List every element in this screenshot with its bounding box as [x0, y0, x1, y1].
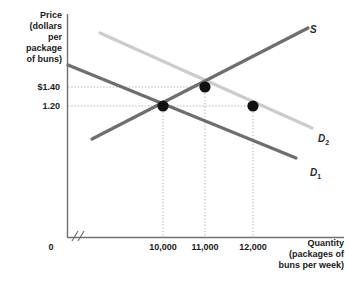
demand1-curve-label: D1 [310, 167, 321, 180]
y-tick-label-1-40: $1.40 [12, 82, 60, 92]
supply-curve-label: S [310, 24, 317, 35]
point-new-equilibrium [199, 81, 210, 92]
point-initial-equilibrium [157, 100, 168, 111]
demand1-curve-label-subscript: 1 [317, 173, 321, 180]
supply-demand-chart: Price (dollars per package of buns) Quan… [0, 0, 348, 286]
demand2-curve-label-subscript: 2 [325, 139, 329, 146]
origin-label: 0 [44, 242, 58, 252]
supply-curve-label-text: S [310, 24, 317, 35]
y-axis-title: Price (dollars per package of buns) [6, 10, 62, 65]
point-quantity-demanded-12000 [247, 100, 258, 111]
x-tick-label-11000: 11,000 [179, 242, 231, 252]
demand-curve-d1 [68, 65, 296, 158]
demand2-curve-label: D2 [318, 133, 329, 146]
axes [68, 14, 345, 241]
y-tick-label-1-20: 1.20 [12, 101, 60, 111]
axis-break-icon [72, 231, 84, 241]
x-tick-label-12000: 12,000 [227, 242, 279, 252]
